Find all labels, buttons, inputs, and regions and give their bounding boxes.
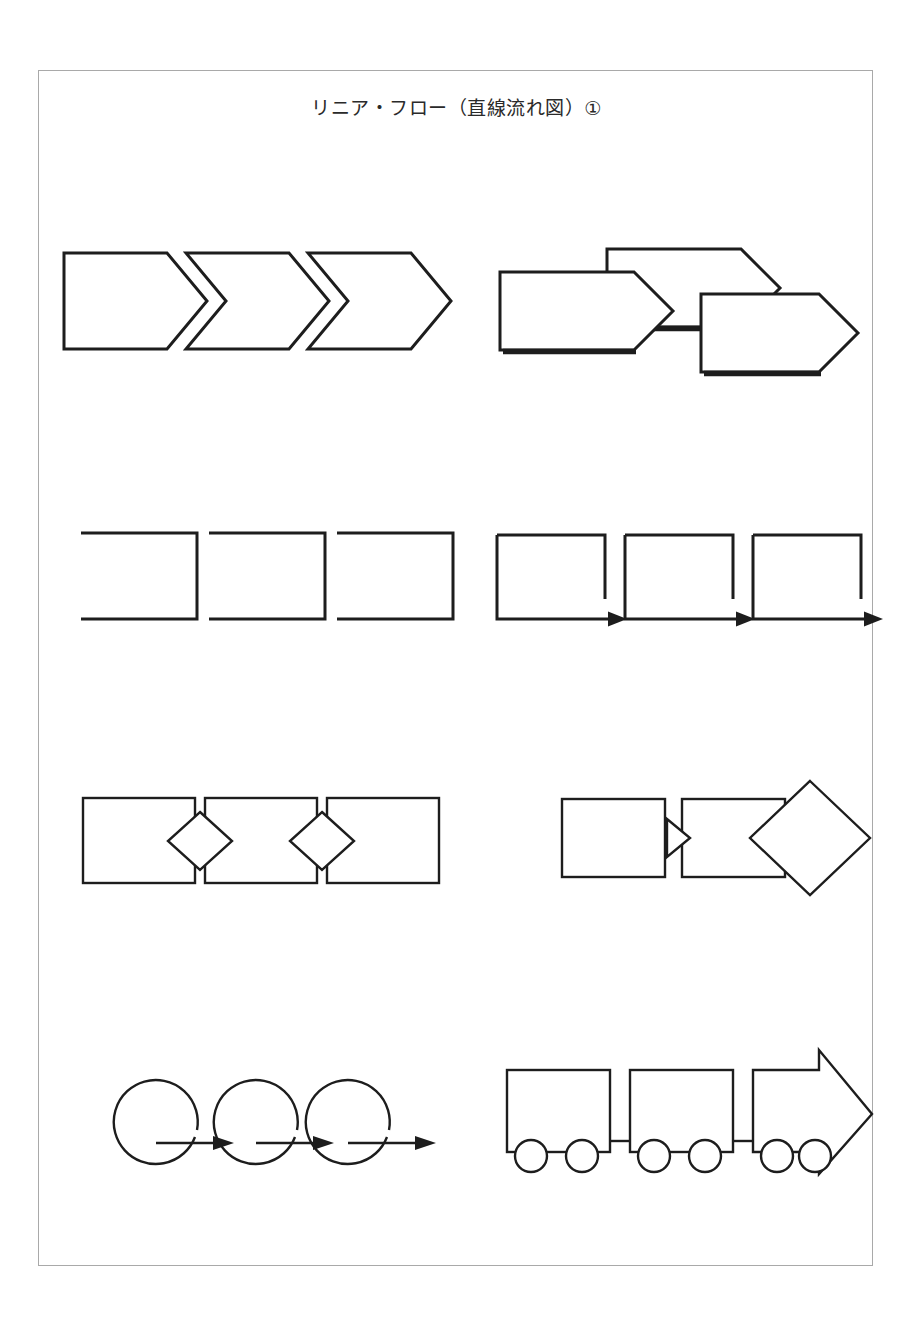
- loop-arrowhead-3: [415, 1136, 436, 1150]
- rect-triangle-diamond-svg: [487, 771, 887, 906]
- page-title: リニア・フロー（直線流れ図）①: [39, 93, 874, 120]
- diagram-circle-loop-arrows[interactable]: [94, 1051, 454, 1171]
- circle-loop-1: [114, 1080, 198, 1164]
- diagram-open-bracket-chain[interactable]: [69, 521, 459, 631]
- train-wheel-1b: [566, 1140, 598, 1172]
- rect-diamond-chain-svg: [77, 786, 457, 896]
- circle-loop-arrows-svg: [94, 1051, 454, 1171]
- train-car-1: [507, 1070, 610, 1152]
- train-wheel-3a: [761, 1140, 793, 1172]
- pentagon-arrow-1: [500, 272, 673, 350]
- chevron-shape-1: [64, 253, 207, 349]
- train-wheel-1a: [515, 1140, 547, 1172]
- diagram-bracket-arrow-chain[interactable]: [487, 519, 877, 639]
- train-car-2: [630, 1070, 733, 1152]
- bracket-arrow-shape-1: [497, 535, 605, 599]
- bracket-arrow-shape-2: [625, 535, 733, 599]
- diagram-rect-diamond-chain[interactable]: [77, 786, 457, 896]
- bracket-arrowhead-3: [864, 612, 883, 627]
- bracket-shape-2: [209, 533, 325, 619]
- bracket-arrow-line-1: [497, 535, 610, 619]
- train-arrow-svg: [487, 1046, 887, 1186]
- circle-loop-3: [306, 1080, 390, 1164]
- diagram-stacked-pentagon-arrows[interactable]: [494, 236, 864, 376]
- diagram-sheet: リニア・フロー（直線流れ図）①: [38, 70, 873, 1266]
- stacked-pentagon-arrows-svg: [494, 236, 864, 376]
- bracket-shape-1: [81, 533, 197, 619]
- rect-shape-a: [562, 799, 665, 877]
- open-bracket-chain-svg: [69, 521, 459, 631]
- diagram-rect-triangle-diamond[interactable]: [487, 771, 887, 906]
- train-wheel-2b: [689, 1140, 721, 1172]
- train-wheel-2a: [638, 1140, 670, 1172]
- diagram-chevron-chain[interactable]: [59, 241, 469, 361]
- chevron-chain-svg: [59, 241, 469, 361]
- bracket-arrow-line-2: [625, 535, 738, 619]
- bracket-shape-3: [337, 533, 453, 619]
- page-canvas: リニア・フロー（直線流れ図）①: [0, 0, 918, 1327]
- diagram-train-arrow[interactable]: [487, 1046, 887, 1186]
- bracket-arrow-line-3: [753, 535, 866, 619]
- circle-loop-2: [214, 1080, 298, 1164]
- pentagon-arrow-3: [701, 294, 858, 372]
- bracket-arrow-shape-3: [753, 535, 861, 599]
- train-wheel-3b: [799, 1140, 831, 1172]
- bracket-arrow-chain-svg: [487, 519, 877, 639]
